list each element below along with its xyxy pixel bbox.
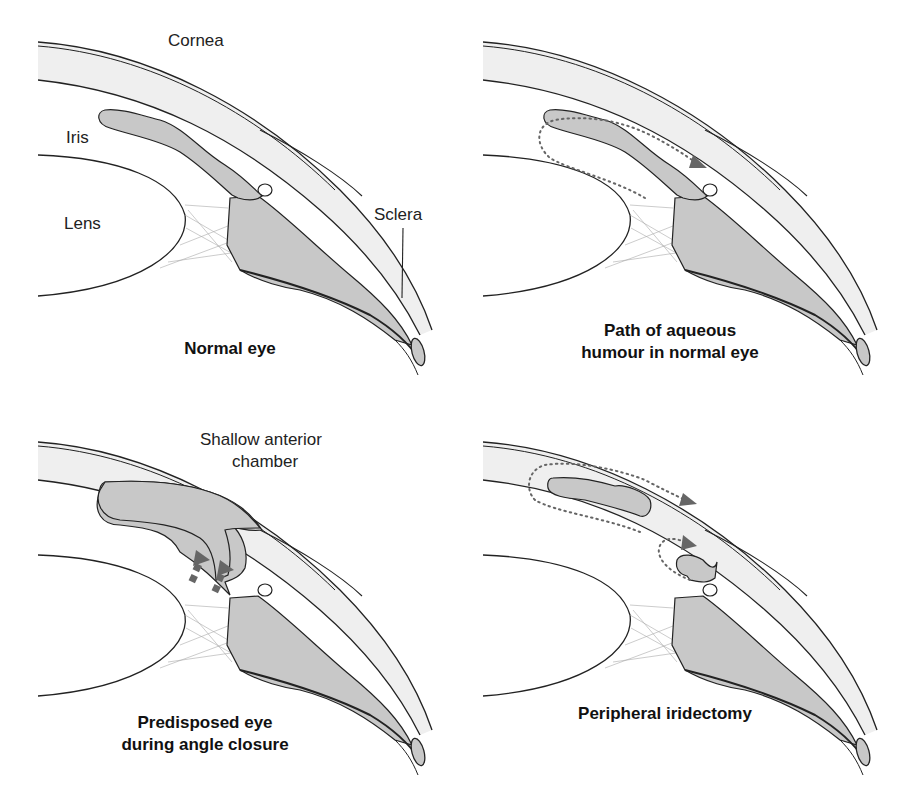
caption-aqueous-path: Path of aqueous humour in normal eye (560, 320, 780, 364)
panel-normal-eye: Cornea Iris Lens Sclera Normal eye (0, 0, 454, 401)
panel-angle-closure: Shallow anterior chamber Predisposed eye… (0, 400, 454, 801)
label-shallow-chamber-line2: chamber (232, 452, 298, 472)
caption-normal-eye: Normal eye (150, 338, 310, 360)
panel-iridectomy: Peripheral iridectomy (445, 400, 899, 801)
label-shallow-chamber-line1: Shallow anterior (200, 430, 322, 450)
caption-angle-closure: Predisposed eye during angle closure (95, 712, 315, 756)
iridectomy-illustration (445, 400, 899, 801)
caption-iridectomy: Peripheral iridectomy (535, 703, 795, 725)
label-lens: Lens (64, 214, 101, 234)
label-cornea: Cornea (168, 31, 224, 51)
panel-aqueous-path: Path of aqueous humour in normal eye (445, 0, 899, 401)
label-sclera: Sclera (374, 205, 422, 225)
label-iris: Iris (66, 128, 89, 148)
